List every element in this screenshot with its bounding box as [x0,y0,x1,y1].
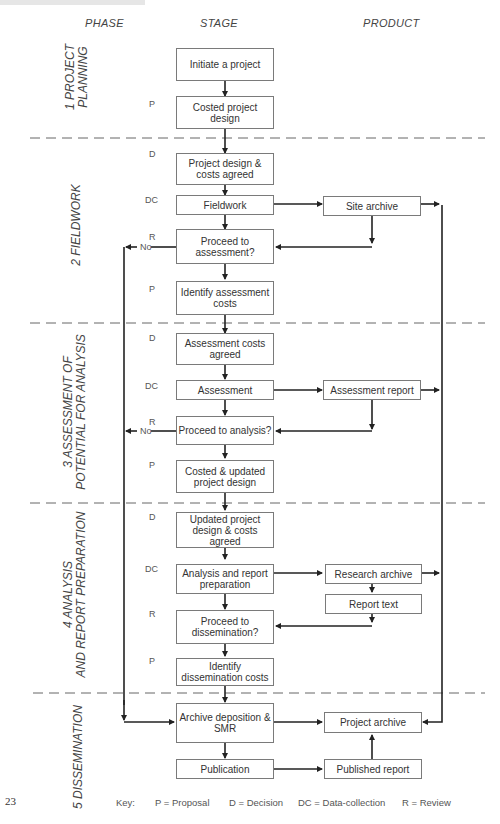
product-site-archive: Site archive [323,196,421,216]
stage-code: DC [145,381,158,391]
product-assessment-report: Assessment report [323,380,421,400]
phase-1-line2: PLANNING [77,22,90,132]
stage-project-design-agreed: Project design & costs agreed [176,153,274,185]
phase-4-line2: AND REPORT PREPARATION [75,507,88,682]
phase-label-3: 3 ASSESSMENT OF POTENTIAL FOR ANALYSIS [62,332,88,492]
key-label: Key: [116,797,135,808]
stage-updated-design-agreed: Updated project design & costs agreed [176,512,274,548]
stage-proceed-to-dissemination: Proceed to dissemination? [176,610,274,644]
no-label: No [140,426,152,436]
stage-proceed-to-analysis: Proceed to analysis? [176,416,274,445]
stage-assessment-costs-agreed: Assessment costs agreed [176,333,274,365]
no-label: No [140,242,152,252]
phase-label-1: 1 PROJECT PLANNING [64,22,90,132]
product-research-archive: Research archive [325,564,422,584]
stage-costed-updated-design: Costed & updated project design [176,460,274,493]
stage-costed-project-design: Costed project design [176,96,274,129]
stage-code: P [149,99,155,109]
stage-code: D [149,512,156,522]
stage-code: DC [145,564,158,574]
key-item-data-collection: DC = Data-collection [298,797,385,808]
stage-initiate-project: Initiate a project [176,48,274,81]
stage-identify-assessment-costs: Identify assessment costs [176,281,274,315]
phase-label-5: 5 DISSEMINATION [72,696,85,818]
stage-code: R [149,232,156,242]
stage-proceed-to-assessment: Proceed to assessment? [176,229,274,264]
phase-label-2: 2 FIELDWORK [70,150,83,300]
product-project-archive: Project archive [324,712,422,733]
stage-identify-dissemination-costs: Identify dissemination costs [176,658,274,686]
phase-3-line2: POTENTIAL FOR ANALYSIS [75,332,88,492]
stage-code: D [149,149,156,159]
stage-archive-deposition: Archive deposition & SMR [176,703,274,743]
product-report-text: Report text [325,594,422,614]
page-number: 23 [5,795,16,807]
stage-code: R [149,609,156,619]
stage-code: DC [145,195,158,205]
product-published-report: Published report [324,759,422,779]
stage-code: D [149,333,156,343]
stage-assessment: Assessment [176,380,274,400]
stage-analysis-report-prep: Analysis and report preparation [176,564,274,594]
phase-2-line1: 2 FIELDWORK [70,150,83,300]
key-item-proposal: P = Proposal [155,797,210,808]
phase-label-4: 4 ANALYSIS AND REPORT PREPARATION [62,507,88,682]
key-item-decision: D = Decision [229,797,283,808]
stage-code: P [149,460,155,470]
phase-5-line1: 5 DISSEMINATION [72,696,85,818]
stage-code: P [149,284,155,294]
stage-fieldwork: Fieldwork [176,195,274,215]
stage-code: P [149,656,155,666]
stage-publication: Publication [176,759,274,779]
key-item-review: R = Review [402,797,451,808]
